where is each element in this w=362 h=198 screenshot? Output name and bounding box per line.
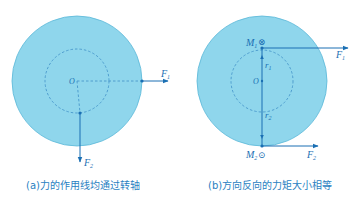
f2-label-b: F2	[306, 149, 316, 161]
into-page-icon: ⊗	[258, 37, 266, 47]
caption-a: (a)力的作用线均通过转轴	[26, 177, 140, 192]
m2-label: M2	[245, 149, 257, 161]
diagram-canvas: O F1 F2 M1 ⊗ M2 ⊙ r1 r2 O F1 F2	[0, 0, 362, 198]
f2-label-a: F2	[83, 157, 93, 169]
center-label-b: O	[253, 77, 259, 86]
out-of-page-icon: ⊙	[258, 150, 266, 160]
caption-b: (b)方向反向的力矩大小相等	[208, 177, 332, 192]
f1-label-b: F1	[335, 49, 345, 61]
f1-label-a: F1	[160, 68, 170, 80]
center-point-b	[261, 80, 263, 82]
point-f2-a	[78, 111, 81, 114]
figure-a: O F1 F2	[12, 16, 170, 169]
center-label-a: O	[69, 77, 75, 86]
figure-b: M1 ⊗ M2 ⊙ r1 r2 O F1 F2	[197, 16, 348, 161]
point-f1-a	[140, 79, 143, 82]
